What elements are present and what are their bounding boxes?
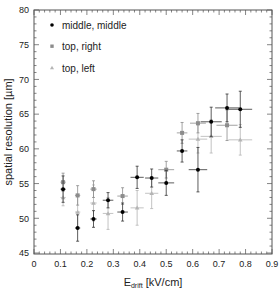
legend: middle, middle top, right top, left: [50, 20, 127, 74]
data-point: [196, 121, 200, 125]
x-tick-label: 0.4: [134, 259, 147, 269]
legend-marker-middle-middle: [50, 23, 54, 27]
data-point: [180, 149, 184, 153]
data-point: [61, 187, 65, 191]
legend-label-top-right: top, right: [62, 41, 101, 52]
y-tick-label: 70: [19, 75, 29, 85]
data-point: [196, 168, 200, 172]
data-point: [92, 187, 96, 191]
y-tick-label: 45: [19, 248, 29, 258]
x-axis-label: Edrift [kV/cm]: [124, 276, 183, 289]
chart: 00.10.20.30.40.50.60.70.80.9455055606570…: [0, 0, 279, 293]
y-tick-label: 65: [19, 109, 29, 119]
x-tick-label: 0.3: [107, 259, 120, 269]
data-point: [135, 175, 139, 179]
data-point: [106, 198, 110, 202]
series-top-left: [60, 120, 252, 230]
y-tick-label: 55: [19, 179, 29, 189]
legend-label-top-left: top, left: [62, 63, 95, 74]
data-point: [180, 131, 184, 135]
data-point: [238, 107, 242, 111]
data-point: [121, 194, 125, 198]
x-tick-label: 0.5: [160, 259, 173, 269]
x-tick-label: 0: [31, 259, 36, 269]
x-tick-label: 0.6: [186, 259, 199, 269]
data-point: [121, 210, 125, 214]
legend-marker-top-right: [50, 45, 53, 48]
data-point: [164, 181, 168, 185]
data-point: [76, 193, 80, 197]
y-tick-label: 80: [19, 5, 29, 15]
data-point: [76, 226, 80, 230]
y-tick-label: 60: [19, 144, 29, 154]
data-point: [150, 176, 154, 180]
series-middle-middle: [60, 91, 252, 241]
y-tick-label: 50: [19, 214, 29, 224]
data-point: [92, 217, 96, 221]
x-tick-label: 0.7: [213, 259, 226, 269]
x-tick-label: 0.8: [239, 259, 252, 269]
x-tick-label: 0.9: [266, 259, 279, 269]
data-point: [209, 120, 213, 124]
x-tick-label: 0.1: [54, 259, 67, 269]
y-tick-label: 75: [19, 40, 29, 50]
legend-label-middle-middle: middle, middle: [62, 20, 127, 31]
x-tick-label: 0.2: [81, 259, 94, 269]
tick-labels: 00.10.20.30.40.50.60.70.80.9455055606570…: [19, 5, 278, 269]
y-axis-label: spatial resolution [µm]: [2, 78, 14, 185]
legend-marker-top-left: [50, 66, 54, 69]
data-point: [225, 123, 229, 127]
data-series: [60, 91, 252, 241]
